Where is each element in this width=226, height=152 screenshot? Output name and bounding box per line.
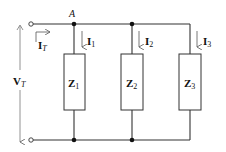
node-top-2 [130, 22, 135, 27]
top-terminal [29, 22, 33, 26]
node-a-label: A [68, 8, 76, 19]
node-a [72, 22, 77, 27]
node-bottom-2 [130, 138, 135, 143]
current-label-2: I2 [145, 35, 153, 49]
current-label-3: I3 [203, 35, 211, 49]
total-voltage-label: VT [13, 75, 26, 89]
wires [33, 24, 190, 140]
total-current-label: IT [38, 39, 47, 53]
current-label-1: I1 [87, 35, 95, 49]
bottom-terminal [29, 138, 33, 142]
node-bottom-1 [72, 138, 77, 143]
circuit-diagram: A IT VT I1 I2 I3 Z1 Z2 Z3 [0, 0, 226, 152]
